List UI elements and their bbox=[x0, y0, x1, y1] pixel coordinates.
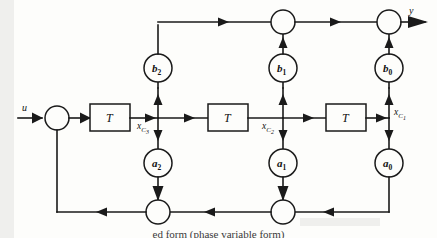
state-xc2-sub-n: 2 bbox=[271, 129, 274, 135]
gain-a2-sub: 2 bbox=[158, 163, 162, 172]
sum-junction-top-middle bbox=[271, 10, 295, 34]
gain-b2-label: b2 bbox=[152, 63, 161, 77]
state-xc2-label: xC2 bbox=[262, 122, 274, 135]
bottom-rail-sumleft-to-inputriser bbox=[57, 208, 146, 217]
diagram-canvas bbox=[0, 0, 437, 238]
state-xc3-sub-n: 3 bbox=[146, 129, 149, 135]
state-xc2-sub: C2 bbox=[266, 126, 274, 134]
top-rail-sum1-to-sum2 bbox=[295, 18, 377, 27]
gain-a1-sub: 1 bbox=[283, 163, 287, 172]
gain-b0-label: b0 bbox=[383, 63, 392, 77]
wire-xc3-to-delay2 bbox=[158, 114, 208, 123]
riser-xc1-to-b0 bbox=[385, 78, 394, 118]
input-label: u bbox=[22, 103, 27, 113]
gain-a0-sub: 0 bbox=[389, 163, 393, 172]
delay-block-2-label: T bbox=[224, 112, 231, 124]
sum-junction-top-right bbox=[377, 10, 401, 34]
descender-xc1-to-a0 bbox=[385, 118, 394, 150]
gain-a1-label: a1 bbox=[277, 158, 286, 172]
descender-xc3-to-a2 bbox=[154, 118, 163, 150]
bottom-rail-a0-to-summid bbox=[295, 208, 389, 217]
state-xc1-sub-n: 1 bbox=[403, 115, 406, 121]
riser-b0-to-sum bbox=[385, 34, 394, 54]
gain-a0-label: a0 bbox=[383, 158, 392, 172]
descender-xc2-to-a1 bbox=[279, 118, 288, 150]
delay-block-1-label: T bbox=[106, 112, 113, 124]
state-xc1-sub: C1 bbox=[398, 112, 406, 120]
descender-a1-to-bottomrail bbox=[278, 177, 289, 201]
bottom-rail-summid-to-sumleft bbox=[170, 208, 271, 217]
riser-xc3-to-b2 bbox=[154, 78, 163, 118]
gain-b0-sub: 0 bbox=[389, 68, 393, 77]
wire-xc2-to-delay3 bbox=[283, 114, 326, 123]
gain-b1-sub: 1 bbox=[283, 68, 287, 77]
wire-delay3-to-xc1 bbox=[366, 114, 389, 123]
gain-b2-sub: 2 bbox=[158, 68, 162, 77]
output-wire bbox=[401, 16, 428, 28]
sum-junction-bottom-middle bbox=[271, 200, 295, 224]
sum-junction-bottom-left bbox=[146, 200, 170, 224]
delay-block-3-label: T bbox=[342, 112, 349, 124]
descender-a2-to-bottomrail bbox=[153, 177, 164, 201]
output-label: y bbox=[409, 6, 413, 16]
top-rail-b2-to-sum1 bbox=[158, 18, 271, 27]
gain-b1-label: b1 bbox=[277, 63, 286, 77]
riser-b1-to-sum bbox=[279, 34, 288, 54]
state-xc1-label: xC1 bbox=[394, 108, 406, 121]
sum-junction-input bbox=[45, 106, 69, 130]
riser-xc2-to-b1 bbox=[279, 78, 288, 118]
state-xc3-sub: C3 bbox=[141, 126, 149, 134]
figure-caption: ed form (phase variable form) bbox=[0, 228, 437, 238]
gain-a2-label: a2 bbox=[152, 158, 161, 172]
state-xc3-label: xC3 bbox=[137, 122, 149, 135]
block-diagram-figure: u y T T T b2 b1 b0 a2 a1 a0 xC3 xC2 xC1 … bbox=[0, 0, 437, 238]
